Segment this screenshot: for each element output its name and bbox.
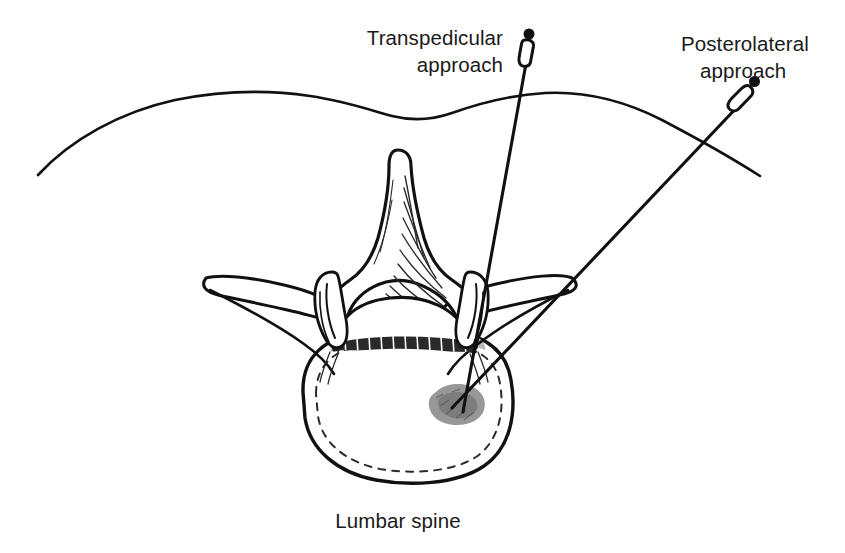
transpedicular-needle-hub[interactable] [519, 30, 534, 67]
transpedicular-label-line2: approach [417, 53, 503, 76]
transpedicular-approach-label: Transpedicular approach [367, 26, 503, 76]
posterolateral-label-line1: Posterolateral [681, 32, 809, 55]
right-superior-articular-process [456, 272, 488, 348]
posterolateral-label-line2: approach [700, 59, 786, 82]
posterolateral-approach-label: Posterolateral approach [681, 32, 809, 82]
posterolateral-needle-hub[interactable] [728, 77, 759, 111]
figure-caption: Lumbar spine [335, 509, 460, 532]
diagram-canvas: Transpedicular approach Posterolateral a… [0, 0, 845, 553]
vertebroplasty-diagram: Transpedicular approach Posterolateral a… [0, 0, 845, 553]
posterolateral-needle[interactable] [452, 77, 759, 408]
transpedicular-label-line1: Transpedicular [367, 26, 503, 49]
left-superior-articular-process [315, 272, 347, 348]
lumbar-vertebra [204, 150, 577, 483]
